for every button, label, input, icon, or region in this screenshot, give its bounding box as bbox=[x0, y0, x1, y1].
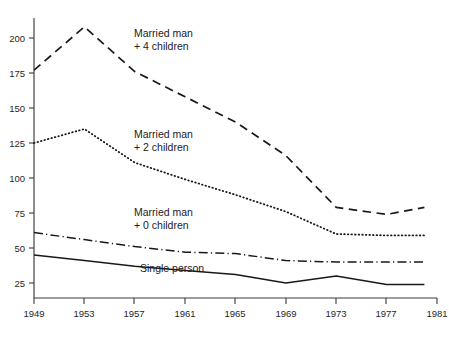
series-line-married-man-4-children bbox=[34, 27, 424, 215]
x-axis-ticks bbox=[34, 298, 437, 304]
line-chart: 200 175 150 125 100 75 50 25 1949 1953 1… bbox=[0, 0, 449, 337]
annotation-married-man-4-children-line1: Married man bbox=[134, 27, 193, 39]
series-line-single-person bbox=[34, 255, 424, 284]
y-tick-label-150: 150 bbox=[9, 103, 25, 114]
y-tick-label-50: 50 bbox=[14, 243, 25, 254]
x-tick-label-1965: 1965 bbox=[224, 308, 245, 319]
annotation-married-man-2-children-line1: Married man bbox=[134, 128, 193, 140]
data-series-group bbox=[34, 27, 424, 285]
y-tick-label-175: 175 bbox=[9, 68, 25, 79]
x-tick-label-1981: 1981 bbox=[426, 308, 447, 319]
series-line-married-man-0-children bbox=[34, 233, 424, 262]
x-tick-label-1953: 1953 bbox=[73, 308, 94, 319]
annotation-single-person: Single person bbox=[140, 262, 204, 274]
y-axis-ticks bbox=[29, 38, 34, 283]
axes bbox=[34, 18, 437, 298]
y-tick-label-25: 25 bbox=[14, 278, 25, 289]
x-tick-label-1957: 1957 bbox=[123, 308, 144, 319]
x-tick-label-1977: 1977 bbox=[375, 308, 396, 319]
y-axis-labels: 200 175 150 125 100 75 50 25 bbox=[9, 33, 25, 289]
annotation-married-man-0-children-line2: + 0 children bbox=[134, 219, 189, 231]
chart-canvas: 200 175 150 125 100 75 50 25 1949 1953 1… bbox=[0, 0, 449, 337]
y-tick-label-100: 100 bbox=[9, 173, 25, 184]
x-tick-label-1969: 1969 bbox=[275, 308, 296, 319]
series-line-married-man-2-children bbox=[34, 129, 424, 235]
y-tick-label-75: 75 bbox=[14, 208, 25, 219]
x-tick-label-1973: 1973 bbox=[325, 308, 346, 319]
annotation-married-man-4-children-line2: + 4 children bbox=[134, 40, 189, 52]
annotation-married-man-2-children-line2: + 2 children bbox=[134, 141, 189, 153]
x-axis-labels: 1949 1953 1957 1961 1965 1969 1973 1977 … bbox=[23, 308, 447, 319]
series-annotations: Married man + 4 children Married man + 2… bbox=[134, 27, 204, 274]
y-tick-label-125: 125 bbox=[9, 138, 25, 149]
annotation-married-man-0-children-line1: Married man bbox=[134, 206, 193, 218]
y-tick-label-200: 200 bbox=[9, 33, 25, 44]
x-tick-label-1949: 1949 bbox=[23, 308, 44, 319]
x-tick-label-1961: 1961 bbox=[174, 308, 195, 319]
